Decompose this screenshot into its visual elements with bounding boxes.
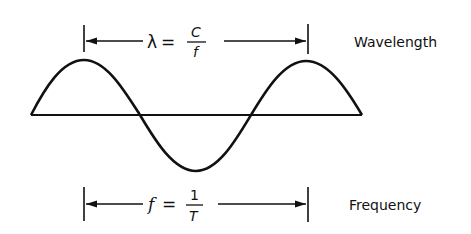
wave-diagram: λ = C f Wavelength f = 1 T Frequency (0, 0, 471, 234)
wavelength-dimension: λ = C f (84, 24, 308, 60)
denominator-t: T (189, 208, 199, 224)
numerator-one: 1 (190, 187, 199, 203)
arrow-head-left-icon (86, 201, 97, 208)
lambda-symbol: λ (147, 32, 157, 52)
arrow-head-right-icon (295, 201, 306, 208)
equals-sign: = (161, 32, 175, 52)
frequency-dimension: f = 1 T (84, 187, 308, 224)
frequency-label: Frequency (349, 197, 421, 213)
frequency-symbol: f (146, 194, 157, 214)
wavelength-label: Wavelength (354, 34, 437, 50)
arrow-head-right-icon (295, 38, 306, 45)
numerator-c: C (191, 24, 201, 40)
denominator-f: f (193, 44, 200, 60)
equals-sign: = (162, 194, 176, 214)
arrow-head-left-icon (86, 38, 97, 45)
